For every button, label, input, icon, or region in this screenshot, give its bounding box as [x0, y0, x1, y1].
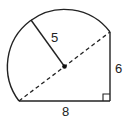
center-point	[62, 64, 67, 69]
semicircle-arc	[7, 9, 110, 101]
radius-line	[31, 20, 65, 67]
composite-figure: 5 6 8	[0, 0, 127, 118]
radius-label: 5	[51, 30, 58, 45]
vertical-leg-label: 6	[115, 61, 122, 76]
horizontal-leg-label: 8	[62, 104, 69, 118]
right-angle-marker	[103, 94, 110, 101]
